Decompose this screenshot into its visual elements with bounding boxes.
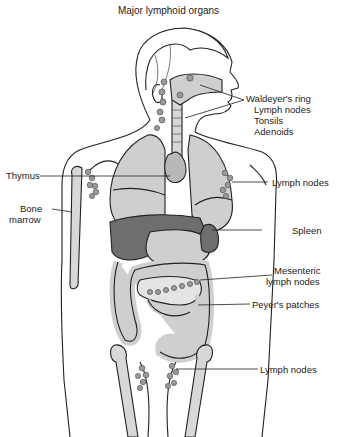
label-peyers-patches: Peyer's patches — [252, 299, 319, 310]
humerus-bone — [70, 166, 82, 288]
lymphoid-organs-diagram: Major lymphoid organs — [0, 0, 337, 437]
label-mesenteric-line2: lymph nodes — [266, 276, 320, 287]
label-axillary-lymph-nodes: Lymph nodes — [272, 177, 329, 188]
label-mesenteric-line1: Mesenteric — [274, 265, 320, 276]
label-tonsils: Tonsils — [254, 115, 283, 126]
label-bone-marrow-line1: Bone — [20, 203, 42, 214]
label-waldeyer-lymph-nodes: Lymph nodes — [254, 104, 311, 115]
left-femur — [111, 345, 138, 437]
thymus — [165, 152, 186, 183]
label-adenoids: Adenoids — [254, 126, 294, 137]
label-spleen: Spleen — [292, 225, 322, 236]
label-thymus: Thymus — [6, 170, 40, 181]
label-inguinal-lymph-nodes: Lymph nodes — [260, 364, 317, 375]
spleen — [201, 224, 219, 252]
right-lung — [188, 135, 232, 230]
label-bone-marrow-line2: marrow — [9, 214, 41, 225]
label-waldeyers-ring: Waldeyer's ring — [246, 93, 311, 104]
